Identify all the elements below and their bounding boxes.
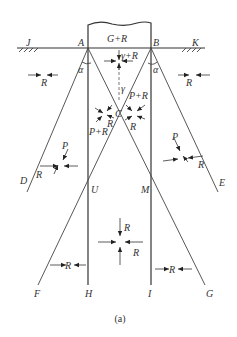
svg-text:R: R (168, 264, 175, 275)
label-B: B (153, 37, 159, 48)
label-A: A (77, 37, 85, 48)
label-H: H (84, 288, 93, 299)
stress-R-bottom-left: R (50, 260, 86, 271)
stress-element-left: P R (35, 140, 78, 180)
alpha-left-label: α (78, 64, 84, 75)
figure-caption: (a) (114, 313, 125, 325)
label-I: I (147, 288, 152, 299)
svg-text:R: R (35, 169, 42, 180)
svg-text:R: R (185, 77, 192, 88)
svg-text:R: R (40, 77, 47, 88)
alpha-arc-left (82, 62, 91, 64)
label-C: C (115, 108, 122, 119)
svg-text:R: R (123, 222, 130, 233)
label-M: M (140, 184, 150, 195)
top-stress-label: γ+R (121, 50, 138, 61)
stress-R-bottom-right: R (155, 264, 192, 275)
label-E: E (218, 177, 225, 188)
label-F: F (33, 288, 41, 299)
svg-text:R: R (129, 121, 136, 132)
stress-element-right: P R (163, 131, 204, 170)
svg-text:R: R (197, 159, 204, 170)
stress-element-left-C: R P+R (88, 105, 114, 137)
svg-text:P: P (171, 131, 178, 142)
stress-element-top: γ+R γ (104, 50, 138, 94)
stress-zone-diagram: J A B K C D E U M F H I G G+R α α γ+R γ … (0, 0, 237, 337)
svg-text:P: P (61, 140, 68, 151)
ground-line (17, 48, 205, 52)
stress-R-upper-right: R (178, 75, 210, 88)
label-G: G (206, 288, 213, 299)
svg-text:P+R: P+R (88, 126, 108, 137)
stress-element-right-C: P+R R (125, 90, 148, 132)
label-U: U (91, 184, 99, 195)
footing-load-label: G+R (107, 33, 127, 44)
stress-R-upper-left: R (28, 75, 58, 88)
gamma-label: γ (121, 83, 126, 94)
svg-text:R: R (64, 260, 71, 271)
label-K: K (191, 37, 200, 48)
label-J: J (26, 37, 31, 48)
label-D: D (19, 175, 28, 186)
stress-element-bottom-center: R R (98, 218, 143, 265)
alpha-right-label: α (153, 64, 159, 75)
svg-text:R: R (132, 247, 139, 258)
svg-text:P+R: P+R (128, 90, 148, 101)
line-B-E (151, 48, 218, 192)
